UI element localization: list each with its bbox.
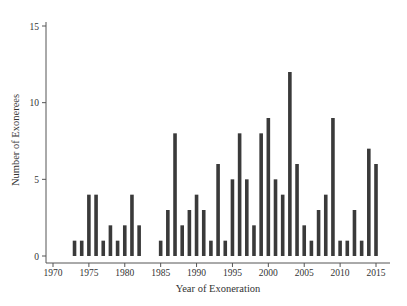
x-tick-label: 1980 <box>115 268 134 278</box>
bar-1980 <box>123 225 127 256</box>
bar-1987 <box>173 133 177 256</box>
bar-2012 <box>353 210 357 256</box>
bar-chart: 1970197519801985199019952000200520102015… <box>0 0 407 306</box>
x-tick-label: 2015 <box>367 268 386 278</box>
y-tick-label: 10 <box>30 98 40 108</box>
bar-2001 <box>274 179 278 256</box>
bar-2002 <box>281 195 285 256</box>
bar-2006 <box>310 241 314 256</box>
bar-2008 <box>324 195 328 256</box>
bar-1982 <box>137 225 141 256</box>
bar-2015 <box>374 164 378 256</box>
bar-2014 <box>367 149 371 256</box>
x-tick-label: 2005 <box>295 268 314 278</box>
bar-1978 <box>109 225 113 256</box>
bar-1981 <box>130 195 134 256</box>
bar-1993 <box>216 164 220 256</box>
bars <box>73 72 378 256</box>
x-axis-label: Year of Exoneration <box>176 283 261 294</box>
x-tick-label: 1985 <box>151 268 170 278</box>
x-tick-label: 1990 <box>187 268 206 278</box>
y-tick-label: 5 <box>34 175 39 185</box>
bar-2009 <box>331 118 335 256</box>
bar-2011 <box>345 241 349 256</box>
bar-1996 <box>238 133 242 256</box>
bar-1994 <box>223 241 227 256</box>
bar-1985 <box>159 241 163 256</box>
bar-1999 <box>259 133 263 256</box>
bar-1997 <box>245 179 249 256</box>
x-tick-label: 2000 <box>259 268 278 278</box>
bar-2007 <box>317 210 321 256</box>
bar-1992 <box>209 241 213 256</box>
bar-2005 <box>302 225 306 256</box>
y-tick-label: 15 <box>30 22 40 32</box>
y-ticks: 051015 <box>30 22 47 262</box>
bar-1990 <box>195 195 199 256</box>
bar-1988 <box>180 225 184 256</box>
x-tick-label: 1975 <box>79 268 98 278</box>
y-axis-label: Number of Exonerees <box>10 94 21 186</box>
bar-1974 <box>80 241 84 256</box>
x-tick-label: 1970 <box>44 268 63 278</box>
bar-1979 <box>116 241 120 256</box>
x-ticks: 1970197519801985199019952000200520102015 <box>44 263 386 278</box>
bar-1995 <box>231 179 235 256</box>
bar-1976 <box>94 195 98 256</box>
bar-1998 <box>252 225 256 256</box>
bar-2003 <box>288 72 292 256</box>
bar-2013 <box>360 241 364 256</box>
bar-2010 <box>338 241 342 256</box>
bar-2000 <box>267 118 271 256</box>
bar-1975 <box>87 195 91 256</box>
bar-1977 <box>101 241 105 256</box>
x-tick-label: 2010 <box>331 268 350 278</box>
bar-1991 <box>202 210 206 256</box>
bar-1973 <box>73 241 77 256</box>
bar-2004 <box>295 164 299 256</box>
bar-1986 <box>166 210 170 256</box>
x-tick-label: 1995 <box>223 268 242 278</box>
bar-1989 <box>188 210 192 256</box>
y-tick-label: 0 <box>34 252 39 262</box>
